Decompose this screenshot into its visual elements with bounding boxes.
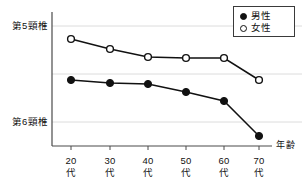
series-line-male xyxy=(71,80,259,136)
legend-label-male: 男性 xyxy=(251,10,271,22)
x-tick-unit: 代 xyxy=(171,167,201,179)
data-point-female-20代 xyxy=(68,36,75,43)
x-tick-number: 20 xyxy=(56,155,86,167)
x-tick-label-50代: 50代 xyxy=(171,155,201,179)
data-point-female-50代 xyxy=(183,55,190,62)
data-point-female-60代 xyxy=(221,55,228,62)
x-tick-unit: 代 xyxy=(209,167,239,179)
x-axis-tick-labels: 20代30代40代50代60代70代 xyxy=(52,155,270,183)
data-point-male-30代 xyxy=(106,79,113,86)
x-tick-number: 40 xyxy=(133,155,163,167)
x-tick-label-40代: 40代 xyxy=(133,155,163,179)
x-tick-unit: 代 xyxy=(244,167,274,179)
x-tick-number: 60 xyxy=(209,155,239,167)
x-tick-label-30代: 30代 xyxy=(95,155,125,179)
x-tick-number: 70 xyxy=(244,155,274,167)
legend-item-female: 女性 xyxy=(240,22,294,34)
x-tick-label-20代: 20代 xyxy=(56,155,86,179)
filled-circle-icon xyxy=(240,13,247,20)
x-axis-ticks xyxy=(71,146,259,150)
x-tick-number: 50 xyxy=(171,155,201,167)
legend-label-female: 女性 xyxy=(251,22,271,34)
legend: 男性 女性 xyxy=(233,6,295,37)
x-tick-label-60代: 60代 xyxy=(209,155,239,179)
open-circle-icon xyxy=(240,25,247,32)
data-point-female-70代 xyxy=(256,77,263,84)
x-tick-number: 30 xyxy=(95,155,125,167)
data-series-layer xyxy=(67,36,262,140)
data-point-male-40代 xyxy=(144,80,151,87)
x-axis-caption: 年齢 xyxy=(276,141,295,150)
data-point-female-40代 xyxy=(145,54,152,61)
data-point-male-50代 xyxy=(182,88,189,95)
data-point-female-30代 xyxy=(107,46,114,53)
data-point-male-70代 xyxy=(255,132,262,139)
x-tick-unit: 代 xyxy=(56,167,86,179)
x-tick-unit: 代 xyxy=(95,167,125,179)
x-tick-label-70代: 70代 xyxy=(244,155,274,179)
data-point-male-20代 xyxy=(67,76,74,83)
data-point-male-60代 xyxy=(220,97,227,104)
legend-item-male: 男性 xyxy=(240,10,294,22)
x-tick-unit: 代 xyxy=(133,167,163,179)
gridlines xyxy=(52,26,302,122)
chart-container: 第5頸椎 第6頸椎 年齢 20代30代40代50代60代70代 男性 女性 xyxy=(0,0,306,183)
